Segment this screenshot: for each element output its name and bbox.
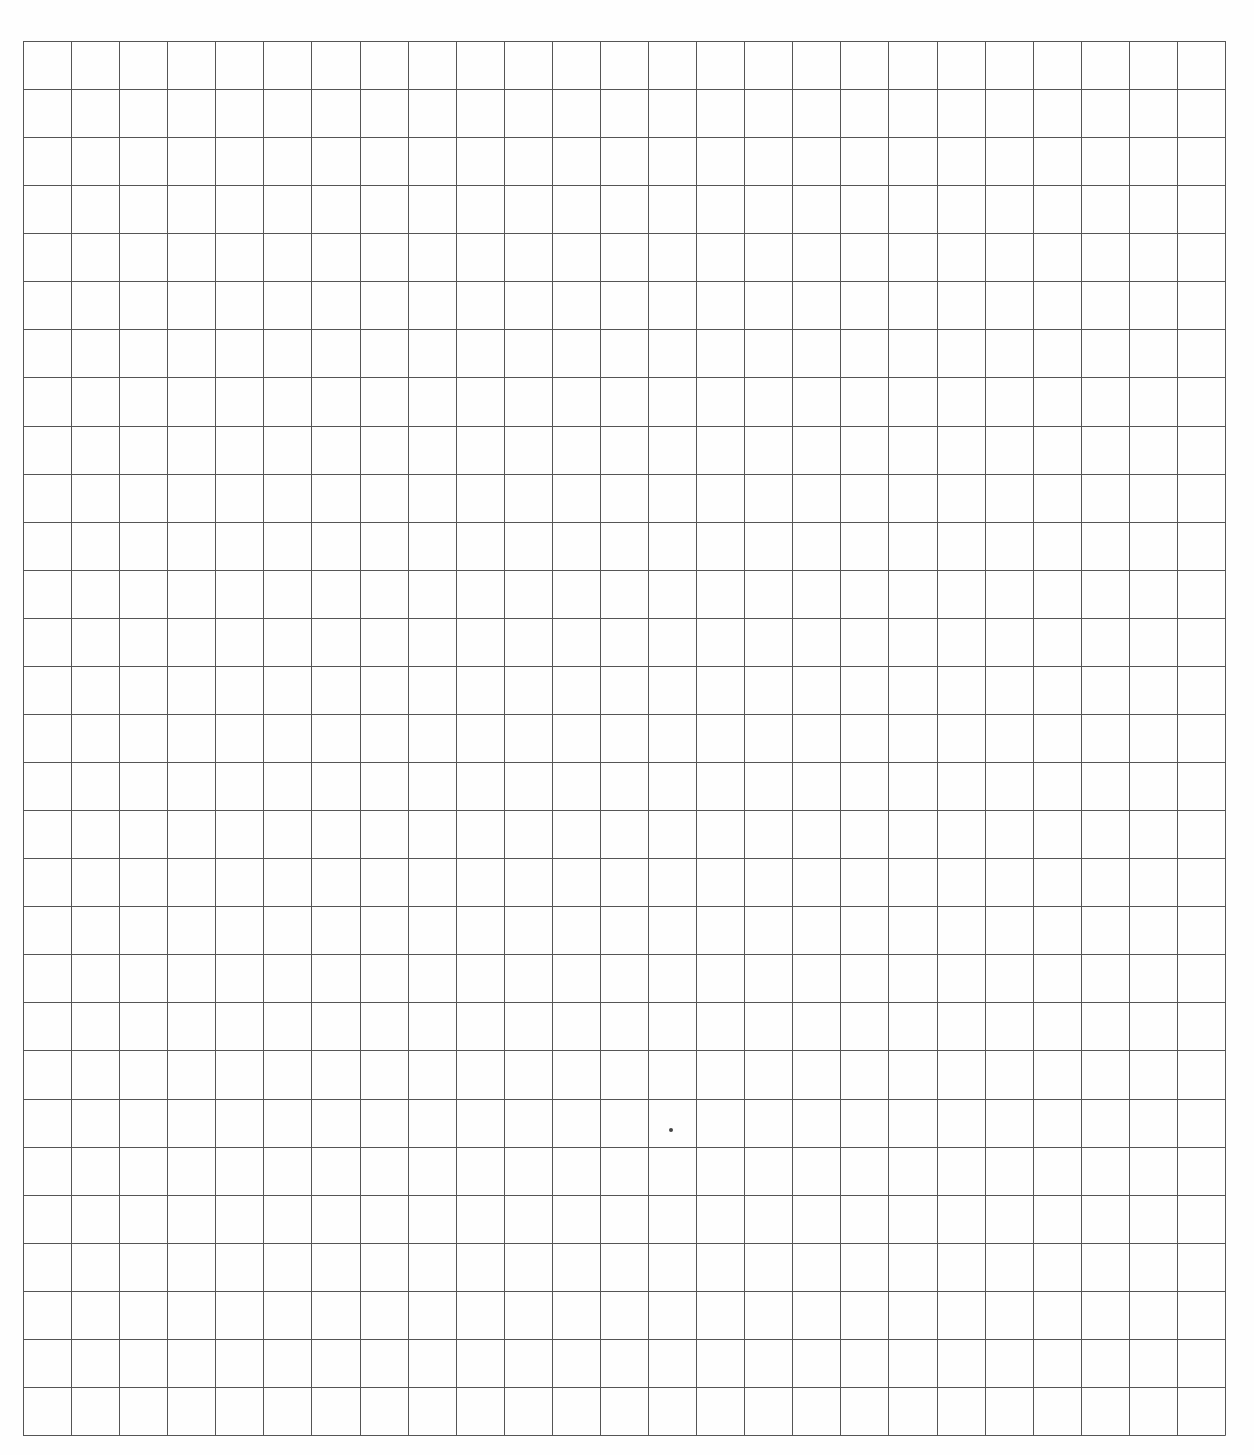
graph-paper-sheet — [0, 0, 1254, 1455]
grid-lines — [23, 41, 1226, 1436]
ink-dot — [669, 1128, 673, 1132]
square-grid — [23, 41, 1225, 1435]
